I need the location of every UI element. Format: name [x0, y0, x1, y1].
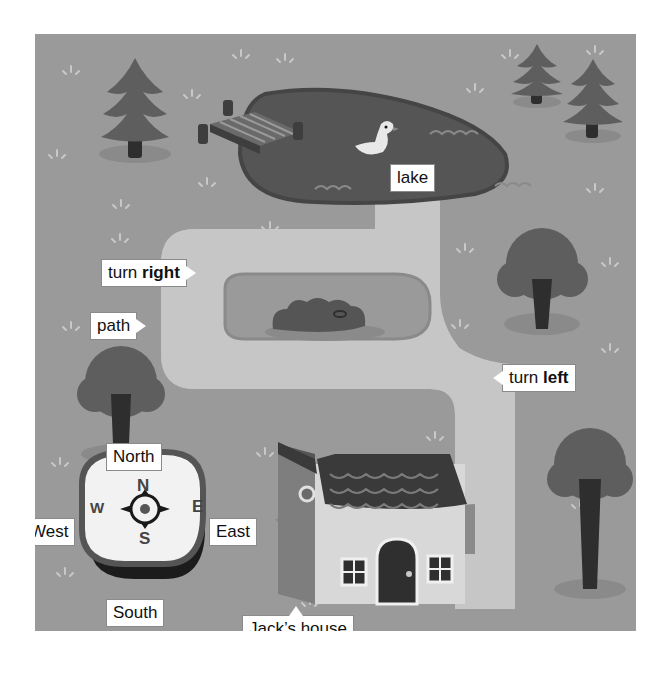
map-scene: N S E W lake turn right path turn left N… [35, 34, 636, 631]
lake-label: lake [390, 164, 435, 192]
pine-tree-right-2 [563, 59, 623, 143]
compass-south-label: South [106, 599, 164, 627]
compass-letter-n: N [137, 476, 149, 496]
turn-left-label: turn left [502, 364, 576, 392]
pine-tree-right-1 [511, 44, 563, 108]
round-tree-right-upper [497, 228, 588, 335]
compass-letter-w: W [90, 499, 104, 516]
turn-right-label: turn right [101, 259, 187, 287]
jacks-house-label: Jack’s house [242, 615, 354, 631]
compass-north-label: North [106, 443, 162, 471]
path-label: path [90, 312, 137, 340]
compass-west-label: West [35, 518, 75, 546]
compass-east-label: East [209, 518, 257, 546]
pine-tree-left [99, 58, 171, 163]
compass-letter-e: E [192, 497, 203, 517]
round-tree-right-lower [547, 428, 633, 599]
house [275, 442, 475, 604]
compass-letter-s: S [139, 529, 150, 549]
